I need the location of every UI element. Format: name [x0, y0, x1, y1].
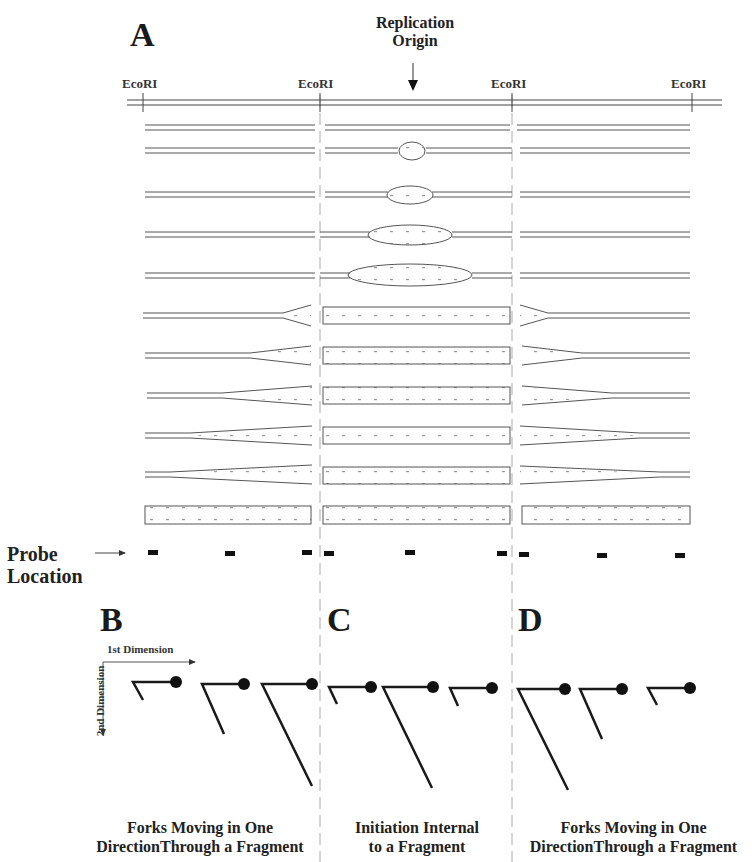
caption-line1: Forks Moving in One — [512, 818, 755, 837]
gel-spot — [306, 678, 318, 690]
gel-pattern — [383, 687, 433, 788]
ecori-site-label: EcoRI — [298, 76, 333, 92]
panel-a-letter: A — [130, 18, 155, 52]
replication-row — [145, 186, 690, 204]
first-dimension-label: 1st Dimension — [107, 643, 173, 655]
gel-pattern — [262, 684, 312, 786]
panel-d-letter: D — [518, 603, 543, 637]
gel-spot — [684, 682, 696, 694]
caption-line1: Forks Moving in One — [80, 818, 320, 837]
gel-pattern — [450, 688, 492, 706]
ecori-site-label: EcoRI — [491, 76, 526, 92]
gel-spot — [616, 683, 628, 695]
gel-pattern — [202, 684, 244, 734]
gel-spot — [238, 678, 250, 690]
caption-line1: Initiation Internal — [332, 818, 502, 837]
caption-line2: DirectionThrough a Fragment — [80, 837, 320, 856]
probe-markers — [95, 550, 685, 558]
replication-row — [145, 264, 690, 286]
replication-origin-label: Replication Origin — [355, 14, 475, 50]
probe-location-label: Probe Location — [7, 543, 83, 587]
panel-b-letter: B — [100, 603, 123, 637]
replication-row — [145, 225, 690, 245]
panel-b-caption: Forks Moving in One DirectionThrough a F… — [80, 818, 320, 856]
panel-d-caption: Forks Moving in One DirectionThrough a F… — [512, 818, 755, 856]
chromosome-map — [127, 63, 722, 112]
replication-row — [143, 305, 690, 326]
gel-pattern — [133, 682, 176, 700]
replication-row — [145, 142, 690, 160]
origin-label-line1: Replication — [355, 14, 475, 32]
gel-spot — [170, 676, 182, 688]
ecori-site-label: EcoRI — [122, 76, 157, 92]
second-dimension-label: 2nd Dimension — [94, 651, 106, 751]
probe-label-line1: Probe — [7, 543, 83, 565]
gel-spot — [486, 682, 498, 694]
gel-pattern — [580, 689, 622, 739]
replication-row — [145, 465, 690, 484]
replication-row — [145, 125, 690, 130]
gel-spot — [559, 683, 571, 695]
replication-diagram — [0, 0, 755, 862]
caption-line2: to a Fragment — [332, 837, 502, 856]
replication-row — [145, 506, 690, 524]
2d-gel-axes — [103, 662, 195, 735]
gel-pattern — [329, 687, 371, 704]
gel-pattern — [648, 688, 690, 705]
probe-label-line2: Location — [7, 565, 83, 587]
gel-spot — [365, 681, 377, 693]
panel-c-caption: Initiation Internal to a Fragment — [332, 818, 502, 856]
origin-label-line2: Origin — [355, 32, 475, 50]
gel-spot — [427, 681, 439, 693]
gel-pattern — [518, 689, 568, 790]
caption-line2: DirectionThrough a Fragment — [512, 837, 755, 856]
replication-row — [145, 346, 690, 365]
ecori-site-label: EcoRI — [671, 76, 706, 92]
replication-row — [145, 426, 690, 445]
panel-c-letter: C — [327, 603, 352, 637]
replication-row — [147, 386, 690, 405]
